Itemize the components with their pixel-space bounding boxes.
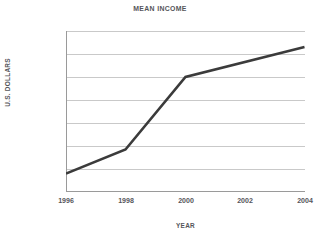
plot-area	[66, 31, 305, 192]
data-line-mean-income	[66, 47, 305, 174]
chart-title: MEAN INCOME	[22, 4, 297, 13]
x-axis-label: YEAR	[83, 221, 289, 230]
y-axis-label: U.S. DOLLARS	[3, 48, 12, 117]
x-tick-label: 2002	[226, 196, 265, 205]
chart-figure: MEAN INCOME U.S. DOLLARS YEAR 330,000 32…	[0, 0, 320, 240]
x-tick-label: 1998	[107, 196, 146, 205]
x-tick-label: 1996	[47, 196, 86, 205]
x-tick-label: 2000	[167, 196, 206, 205]
chart-svg	[66, 31, 305, 192]
x-tick-label: 2004	[286, 196, 320, 205]
gridlines	[66, 32, 305, 170]
